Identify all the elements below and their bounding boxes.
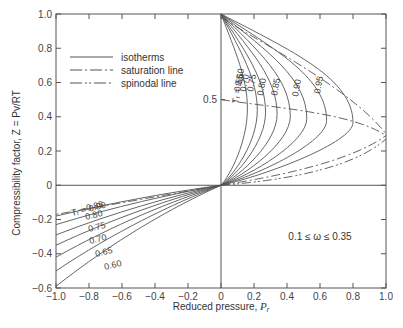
marker-0.5-label: 0.5 bbox=[203, 94, 217, 105]
y-tick-label: −0.4 bbox=[32, 248, 52, 259]
legend-label: isotherms bbox=[121, 52, 164, 63]
isotherm-label-lower: 0.65 bbox=[94, 245, 113, 259]
x-tick-label: −0.4 bbox=[145, 291, 165, 302]
x-axis-title: Reduced pressure, Pr bbox=[173, 300, 270, 313]
y-tick-label: 0 bbox=[46, 180, 52, 191]
y-tick-label: 0.4 bbox=[38, 111, 52, 122]
x-tick-label: 0.4 bbox=[280, 291, 294, 302]
plot-axes: −1.0−0.8−0.6−0.4−0.200.20.40.60.81.0−0.6… bbox=[11, 9, 393, 314]
isotherm-label-lower: 0.70 bbox=[88, 232, 107, 246]
isotherm-label-upper: 0.85 bbox=[269, 77, 282, 96]
legend-label: saturation line bbox=[121, 65, 184, 76]
y-tick-label: 1.0 bbox=[38, 9, 52, 20]
y-tick-label: 0.8 bbox=[38, 43, 52, 54]
y-tick-label: 0.2 bbox=[38, 146, 52, 157]
isotherm-upper bbox=[221, 14, 277, 185]
isotherm-lower bbox=[56, 185, 221, 286]
omega-range-annotation: 0.1 ≤ ω ≤ 0.35 bbox=[288, 231, 352, 242]
x-tick-label: 1.0 bbox=[379, 291, 393, 302]
y-axis-title: Compressibility factor, Z = Pv/RT bbox=[11, 90, 22, 236]
y-tick-label: −0.6 bbox=[32, 283, 52, 294]
isotherm-label-upper: 0.80 bbox=[255, 77, 268, 96]
y-tick-label: 0.6 bbox=[38, 77, 52, 88]
isotherm-label-upper: 0.90 bbox=[290, 78, 303, 97]
isotherm-label-lower: 0.60 bbox=[103, 258, 122, 272]
legend-label: spinodal line bbox=[121, 78, 177, 89]
x-tick-label: −0.6 bbox=[112, 291, 132, 302]
y-tick-label: −0.2 bbox=[32, 214, 52, 225]
isotherm-upper bbox=[221, 14, 266, 185]
isotherm-lower bbox=[56, 185, 221, 257]
isotherm-curves bbox=[56, 14, 353, 286]
x-tick-label: 0.8 bbox=[346, 291, 360, 302]
legend: isothermssaturation linespinodal line bbox=[70, 52, 184, 89]
x-tick-label: −0.8 bbox=[79, 291, 99, 302]
compressibility-chart: −1.0−0.8−0.6−0.4−0.200.20.40.60.81.0−0.6… bbox=[0, 0, 403, 328]
spinodal-line-lower bbox=[221, 139, 386, 185]
x-tick-label: 0.6 bbox=[313, 291, 327, 302]
isotherm-label-upper: 0.95 bbox=[312, 75, 325, 94]
